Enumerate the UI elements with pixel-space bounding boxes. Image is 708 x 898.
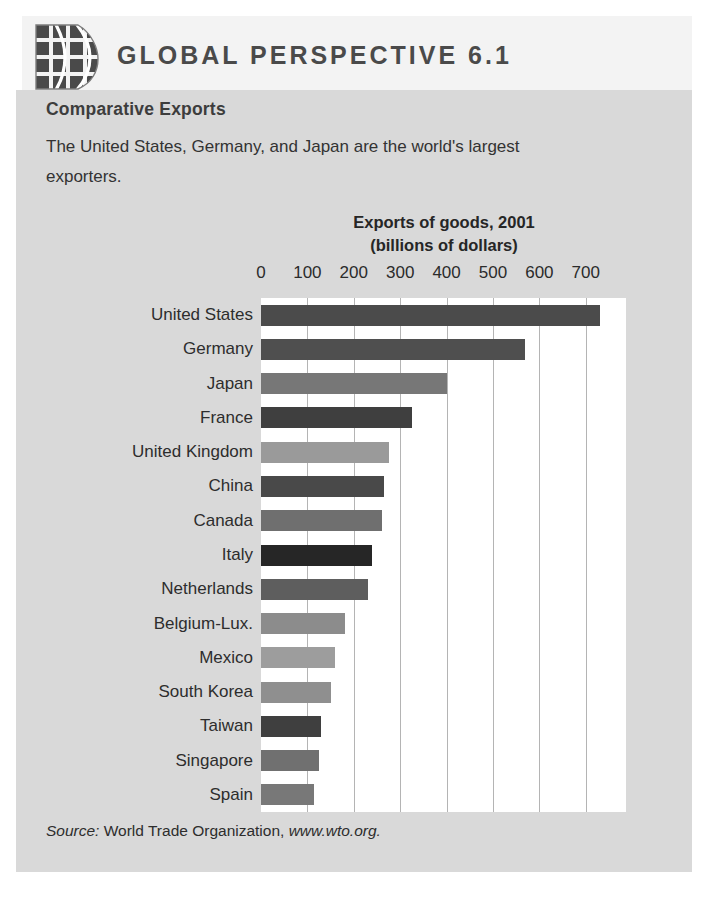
- page-title: GLOBAL PERSPECTIVE 6.1: [117, 41, 512, 70]
- bar-mexico: [261, 647, 335, 668]
- bar-china: [261, 476, 384, 497]
- x-tick-700: 700: [572, 263, 600, 283]
- category-labels: United StatesGermanyJapanFranceUnited Ki…: [20, 298, 253, 812]
- x-tick-300: 300: [386, 263, 414, 283]
- category-label-germany: Germany: [183, 339, 253, 359]
- category-label-south-korea: South Korea: [158, 682, 253, 702]
- x-tick-200: 200: [340, 263, 368, 283]
- category-label-china: China: [209, 476, 253, 496]
- header-left-notch: [0, 16, 22, 90]
- x-tick-500: 500: [479, 263, 507, 283]
- category-label-canada: Canada: [193, 511, 253, 531]
- bar-singapore: [261, 750, 319, 771]
- category-label-united-states: United States: [151, 305, 253, 325]
- bar-netherlands: [261, 579, 368, 600]
- source-prefix: Source:: [46, 822, 99, 839]
- category-label-taiwan: Taiwan: [200, 716, 253, 736]
- bar-south-korea: [261, 682, 331, 703]
- category-label-singapore: Singapore: [175, 751, 253, 771]
- bar-italy: [261, 545, 372, 566]
- bar-spain: [261, 784, 314, 805]
- category-label-france: France: [200, 408, 253, 428]
- category-label-japan: Japan: [207, 374, 253, 394]
- chart-title-line-1: Exports of goods, 2001: [261, 211, 627, 234]
- chart-plot-area: [261, 298, 626, 812]
- bar-belgium-lux: [261, 613, 345, 634]
- gridline-400: [447, 298, 448, 812]
- bar-united-states: [261, 305, 600, 326]
- x-tick-100: 100: [293, 263, 321, 283]
- gridline-700: [586, 298, 587, 812]
- category-label-netherlands: Netherlands: [161, 579, 253, 599]
- description-line-1: The United States, Germany, and Japan ar…: [46, 137, 520, 156]
- chart-title-line-2: (billions of dollars): [261, 234, 627, 257]
- category-label-italy: Italy: [222, 545, 253, 565]
- gridline-500: [493, 298, 494, 812]
- chart-title: Exports of goods, 2001 (billions of doll…: [261, 211, 627, 257]
- category-label-mexico: Mexico: [199, 648, 253, 668]
- x-axis-tick-labels: 0100200300400500600700: [261, 263, 627, 287]
- category-label-united-kingdom: United Kingdom: [132, 442, 253, 462]
- globe-grid-icon: [30, 19, 104, 95]
- source-text: World Trade Organization,: [99, 822, 288, 839]
- x-tick-400: 400: [432, 263, 460, 283]
- x-tick-600: 600: [525, 263, 553, 283]
- category-label-spain: Spain: [210, 785, 253, 805]
- description-line-2: exporters.: [46, 162, 652, 192]
- source-url: www.wto.org.: [289, 822, 381, 839]
- description-text: The United States, Germany, and Japan ar…: [46, 132, 652, 192]
- bar-taiwan: [261, 716, 321, 737]
- gridline-600: [539, 298, 540, 812]
- bar-japan: [261, 373, 447, 394]
- source-note: Source: World Trade Organization, www.wt…: [46, 822, 381, 840]
- bar-united-kingdom: [261, 442, 389, 463]
- bar-germany: [261, 339, 525, 360]
- page-root: GLOBAL PERSPECTIVE 6.1 Comparative Expor…: [0, 0, 708, 898]
- bar-france: [261, 407, 412, 428]
- bar-canada: [261, 510, 382, 531]
- x-tick-0: 0: [256, 263, 265, 283]
- category-label-belgium-lux: Belgium-Lux.: [154, 614, 253, 634]
- section-subtitle: Comparative Exports: [46, 99, 226, 120]
